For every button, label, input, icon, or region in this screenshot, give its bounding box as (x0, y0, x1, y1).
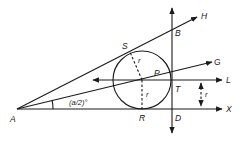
geometry-diagram: A S B P T R D H G L X r r r (a/2)° (0, 0, 243, 143)
label-angle: (a/2)° (69, 98, 87, 107)
angle-arc (52, 100, 53, 109)
label-a: A (9, 114, 16, 124)
label-t: T (175, 84, 181, 94)
label-distance-r: r (205, 90, 208, 99)
label-l: L (226, 75, 231, 85)
label-b: B (175, 28, 181, 38)
label-radius-lower: r (146, 90, 149, 99)
ray-ah (17, 17, 197, 109)
label-radius-upper: r (138, 56, 141, 65)
label-g: G (214, 57, 221, 67)
label-p: P (154, 68, 160, 78)
label-x: X (225, 104, 232, 114)
ray-ag (17, 62, 212, 109)
label-r-point: R (139, 113, 145, 123)
label-h: H (201, 11, 208, 21)
label-s: S (122, 41, 128, 51)
label-d: D (175, 113, 181, 123)
